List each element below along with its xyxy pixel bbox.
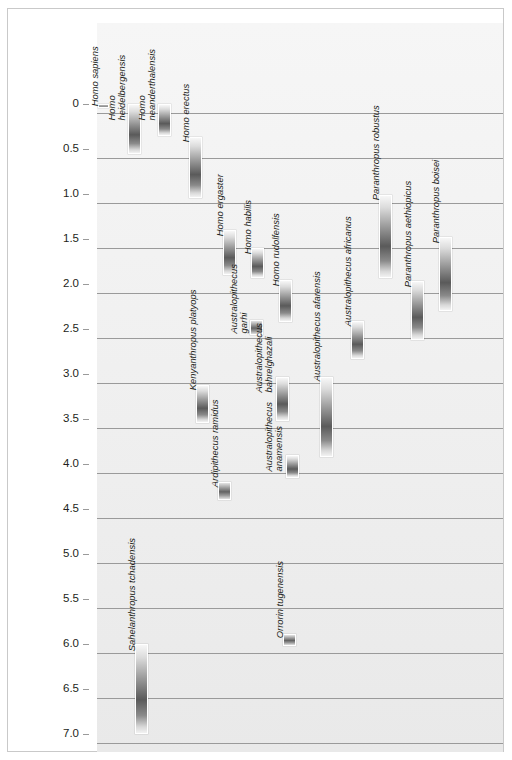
axis-tick bbox=[83, 464, 89, 465]
y-axis-tick-label: 1.5 bbox=[33, 232, 79, 244]
species-label-line: neanderthalensis bbox=[147, 49, 157, 120]
species-label: Homoheidelbergensis bbox=[107, 55, 127, 121]
species-label-line: Homo habilis bbox=[243, 200, 253, 254]
axis-tick bbox=[83, 599, 89, 600]
species-label-line: bahrelghazali bbox=[264, 323, 274, 392]
species-range-bar[interactable] bbox=[411, 281, 424, 340]
gridline bbox=[97, 608, 503, 609]
y-axis-tick-label: 6.5 bbox=[33, 682, 79, 694]
species-label-line: anamensis bbox=[274, 402, 284, 471]
axis-tick bbox=[83, 149, 89, 150]
species-label-line: Paranthropus boisei bbox=[431, 160, 441, 243]
species-label-line: Homo erectus bbox=[181, 84, 191, 142]
species-label: Paranthropus robustus bbox=[371, 105, 381, 200]
gridline bbox=[97, 338, 503, 339]
axis-tick bbox=[83, 554, 89, 555]
gridline bbox=[97, 518, 503, 519]
species-label-line: Homo rudolfensis bbox=[271, 213, 281, 286]
chart-page: MILLIONS OF YEARS BEFORE PRESENT 00.51.0… bbox=[0, 0, 512, 760]
gridline bbox=[97, 158, 503, 159]
y-axis-tick-label: 0 bbox=[33, 97, 79, 109]
species-label: Homo habilis bbox=[243, 200, 253, 254]
species-label: Sahelanthropus tchadensis bbox=[127, 538, 137, 651]
y-axis-tick-label: 3.0 bbox=[33, 367, 79, 379]
y-axis-tick-label: 6.0 bbox=[33, 637, 79, 649]
gridline bbox=[97, 203, 503, 204]
y-axis-tick-label: 1.0 bbox=[33, 187, 79, 199]
species-label-line: Australopithecus africanus bbox=[343, 216, 353, 326]
species-label: Australopithecusanamensis bbox=[264, 402, 284, 471]
species-range-bar[interactable] bbox=[286, 455, 299, 478]
axis-tick bbox=[83, 284, 89, 285]
species-range-bar[interactable] bbox=[351, 321, 364, 359]
y-axis-tick-label: 2.5 bbox=[33, 322, 79, 334]
axis-tick bbox=[83, 644, 89, 645]
species-label: Australopithecus afarensis bbox=[312, 271, 322, 381]
species-label: Homo erectus bbox=[181, 84, 191, 142]
species-label-line: Homo ergaster bbox=[215, 174, 225, 236]
species-label: Homo sapiens bbox=[90, 46, 100, 106]
species-label: Homo rudolfensis bbox=[271, 213, 281, 286]
gridline bbox=[97, 743, 503, 744]
gridline bbox=[97, 428, 503, 429]
species-range-bar[interactable] bbox=[439, 237, 452, 311]
species-label: Homo ergaster bbox=[215, 174, 225, 236]
species-range-bar[interactable] bbox=[158, 104, 171, 136]
axis-tick bbox=[83, 689, 89, 690]
species-label-line: garhi bbox=[239, 264, 249, 333]
y-axis-tick-label: 3.5 bbox=[33, 412, 79, 424]
species-range-bar[interactable] bbox=[189, 137, 202, 198]
axis-tick bbox=[83, 239, 89, 240]
axis-tick bbox=[83, 374, 89, 375]
species-label-line: Paranthropus aethiopicus bbox=[403, 181, 413, 287]
y-axis-tick-label: 4.5 bbox=[33, 502, 79, 514]
y-axis-tick-label: 2.0 bbox=[33, 277, 79, 289]
species-label-line: Paranthropus robustus bbox=[371, 105, 381, 200]
species-label: Ardipithecus ramidus bbox=[210, 400, 220, 488]
axis-tick bbox=[83, 419, 89, 420]
y-axis-tick-label: 5.5 bbox=[33, 592, 79, 604]
species-label-line: Sahelanthropus tchadensis bbox=[127, 538, 137, 651]
species-label-line: Orrorin tugenensis bbox=[275, 561, 285, 638]
species-range-bar[interactable] bbox=[320, 377, 333, 457]
y-axis-tick-label: 5.0 bbox=[33, 547, 79, 559]
species-label-line: Australopithecus afarensis bbox=[312, 271, 322, 381]
species-label-line: Homo sapiens bbox=[90, 46, 100, 106]
species-range-bar[interactable] bbox=[379, 195, 392, 278]
species-range-bar[interactable] bbox=[196, 385, 209, 424]
y-axis-tick-label: 7.0 bbox=[33, 727, 79, 739]
axis-tick bbox=[83, 329, 89, 330]
species-label: Australopithecusbahrelghazali bbox=[254, 323, 274, 392]
species-label: Paranthropus aethiopicus bbox=[403, 181, 413, 287]
species-label-line: Kenyanthropus platyops bbox=[188, 290, 198, 391]
axis-tick bbox=[83, 509, 89, 510]
species-label: Kenyanthropus platyops bbox=[188, 290, 198, 391]
species-label: Paranthropus boisei bbox=[431, 160, 441, 243]
gridline bbox=[97, 563, 503, 564]
species-label: Orrorin tugenensis bbox=[275, 561, 285, 638]
y-axis-tick-label: 0.5 bbox=[33, 142, 79, 154]
axis-tick bbox=[83, 734, 89, 735]
species-label-line: Ardipithecus ramidus bbox=[210, 400, 220, 488]
gridline bbox=[97, 473, 503, 474]
axis-tick bbox=[83, 194, 89, 195]
species-label-line: heidelbergensis bbox=[117, 55, 127, 121]
y-axis-tick-label: 4.0 bbox=[33, 457, 79, 469]
species-range-bar[interactable] bbox=[135, 644, 148, 734]
species-label: Australopithecusgarhi bbox=[229, 264, 249, 333]
gridline bbox=[97, 383, 503, 384]
gridline bbox=[97, 653, 503, 654]
species-label: Homoneanderthalensis bbox=[137, 49, 157, 120]
gridline bbox=[97, 698, 503, 699]
species-label: Australopithecus africanus bbox=[343, 216, 353, 326]
